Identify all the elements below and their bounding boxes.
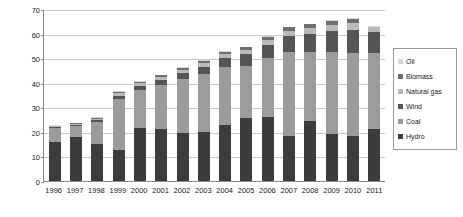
chart-figure: x 103 GWh 010203040506070 19961997199819…	[0, 0, 463, 217]
bar-segment-hydro	[262, 117, 274, 181]
y-axis-tick-label: 20	[32, 128, 40, 137]
bar-segment-hydro	[368, 129, 380, 181]
bar-column[interactable]	[129, 10, 150, 181]
bar-column[interactable]	[257, 10, 278, 181]
stacked-bar[interactable]	[304, 24, 316, 181]
x-axis-tick-label: 2002	[171, 186, 192, 195]
bar-segment-wind	[304, 34, 316, 52]
x-axis-tick-label: 2011	[364, 186, 385, 195]
x-axis-tick-label: 2005	[235, 186, 256, 195]
stacked-bar[interactable]	[155, 75, 167, 181]
bar-segment-wind	[219, 58, 231, 67]
bar-column[interactable]	[342, 10, 363, 181]
x-axis-tick-label: 2000	[129, 186, 150, 195]
x-axis-tick-label: 2010	[342, 186, 363, 195]
bar-segment-coal	[326, 52, 338, 134]
legend-item-natural-gas[interactable]: Natural gas	[398, 84, 453, 99]
bar-segment-hydro	[326, 134, 338, 181]
stacked-bar[interactable]	[134, 81, 146, 181]
x-axis-tick-label: 2004	[214, 186, 235, 195]
stacked-bar[interactable]	[347, 18, 359, 181]
legend-item-coal[interactable]: Coal	[398, 114, 453, 129]
legend-label: Biomass	[406, 73, 433, 80]
bar-segment-hydro	[304, 121, 316, 181]
bar-segment-wind	[347, 30, 359, 53]
bar-segment-coal	[262, 58, 274, 117]
stacked-bar[interactable]	[70, 123, 82, 181]
stacked-bar[interactable]	[326, 20, 338, 181]
legend-swatch-icon	[398, 134, 403, 139]
bar-column[interactable]	[193, 10, 214, 181]
stacked-bar[interactable]	[219, 51, 231, 181]
bar-segment-coal	[219, 67, 231, 125]
bar-segment-natural-gas	[347, 23, 359, 30]
bar-segment-hydro	[70, 137, 82, 181]
x-axis-tick-label: 1997	[64, 186, 85, 195]
bar-column[interactable]	[172, 10, 193, 181]
legend-label: Wind	[406, 103, 422, 110]
bar-segment-wind	[262, 45, 274, 59]
bar-column[interactable]	[215, 10, 236, 181]
y-axis-tick-label: 70	[32, 6, 40, 15]
x-axis-tick-label: 2007	[278, 186, 299, 195]
bar-segment-coal	[134, 90, 146, 128]
bar-segment-coal	[91, 122, 103, 144]
y-axis-tick-label: 60	[32, 30, 40, 39]
stacked-bar[interactable]	[49, 125, 61, 181]
bar-segment-coal	[155, 85, 167, 129]
bar-segment-hydro	[134, 128, 146, 181]
bar-segment-hydro	[347, 136, 359, 181]
stacked-bar[interactable]	[283, 27, 295, 181]
stacked-bar[interactable]	[262, 36, 274, 181]
stacked-bar[interactable]	[113, 91, 125, 181]
bar-segment-wind	[326, 31, 338, 52]
y-axis-tick-label: 10	[32, 153, 40, 162]
y-axis-tick-label: 30	[32, 104, 40, 113]
y-axis-tick-label: 50	[32, 55, 40, 64]
bar-segment-wind	[283, 36, 295, 52]
legend-item-oil[interactable]: Oil	[398, 54, 453, 69]
bar-segment-coal	[198, 74, 210, 132]
x-axis-tick-label: 2009	[321, 186, 342, 195]
bar-segment-coal	[240, 66, 252, 119]
stacked-bar[interactable]	[368, 26, 380, 181]
legend-swatch-icon	[398, 104, 403, 109]
bar-segment-wind	[198, 67, 210, 74]
bar-column[interactable]	[364, 10, 385, 181]
bar-column[interactable]	[236, 10, 257, 181]
bar-segment-coal	[304, 52, 316, 121]
bar-column[interactable]	[44, 10, 65, 181]
bar-column[interactable]	[108, 10, 129, 181]
stacked-bar[interactable]	[177, 67, 189, 181]
bar-segment-hydro	[177, 133, 189, 181]
bar-column[interactable]	[87, 10, 108, 181]
legend-label: Oil	[406, 58, 415, 65]
x-axis-tick-label: 1999	[107, 186, 128, 195]
bar-column[interactable]	[278, 10, 299, 181]
bar-column[interactable]	[151, 10, 172, 181]
bar-column[interactable]	[300, 10, 321, 181]
x-axis-tick-label: 2008	[300, 186, 321, 195]
stacked-bar[interactable]	[198, 60, 210, 181]
bar-column[interactable]	[321, 10, 342, 181]
bar-segment-wind	[240, 54, 252, 65]
stacked-bar[interactable]	[240, 47, 252, 181]
bar-segment-coal	[177, 79, 189, 133]
bar-segment-coal	[368, 53, 380, 129]
x-axis-tick-label: 2001	[150, 186, 171, 195]
legend-item-hydro[interactable]: Hydro	[398, 129, 453, 144]
legend-item-wind[interactable]: Wind	[398, 99, 453, 114]
chart-legend: OilBiomassNatural gasWindCoalHydro	[393, 48, 457, 150]
bar-column[interactable]	[65, 10, 86, 181]
bar-segment-coal	[113, 99, 125, 151]
plot-area: 010203040506070	[43, 10, 385, 182]
legend-item-biomass[interactable]: Biomass	[398, 69, 453, 84]
bar-segment-hydro	[91, 144, 103, 181]
stacked-bar[interactable]	[91, 117, 103, 181]
bar-segment-coal	[49, 128, 61, 142]
x-axis-tick-label: 2003	[193, 186, 214, 195]
bar-segment-coal	[283, 52, 295, 136]
legend-label: Hydro	[406, 133, 425, 140]
bar-segment-hydro	[283, 136, 295, 181]
legend-swatch-icon	[398, 59, 403, 64]
